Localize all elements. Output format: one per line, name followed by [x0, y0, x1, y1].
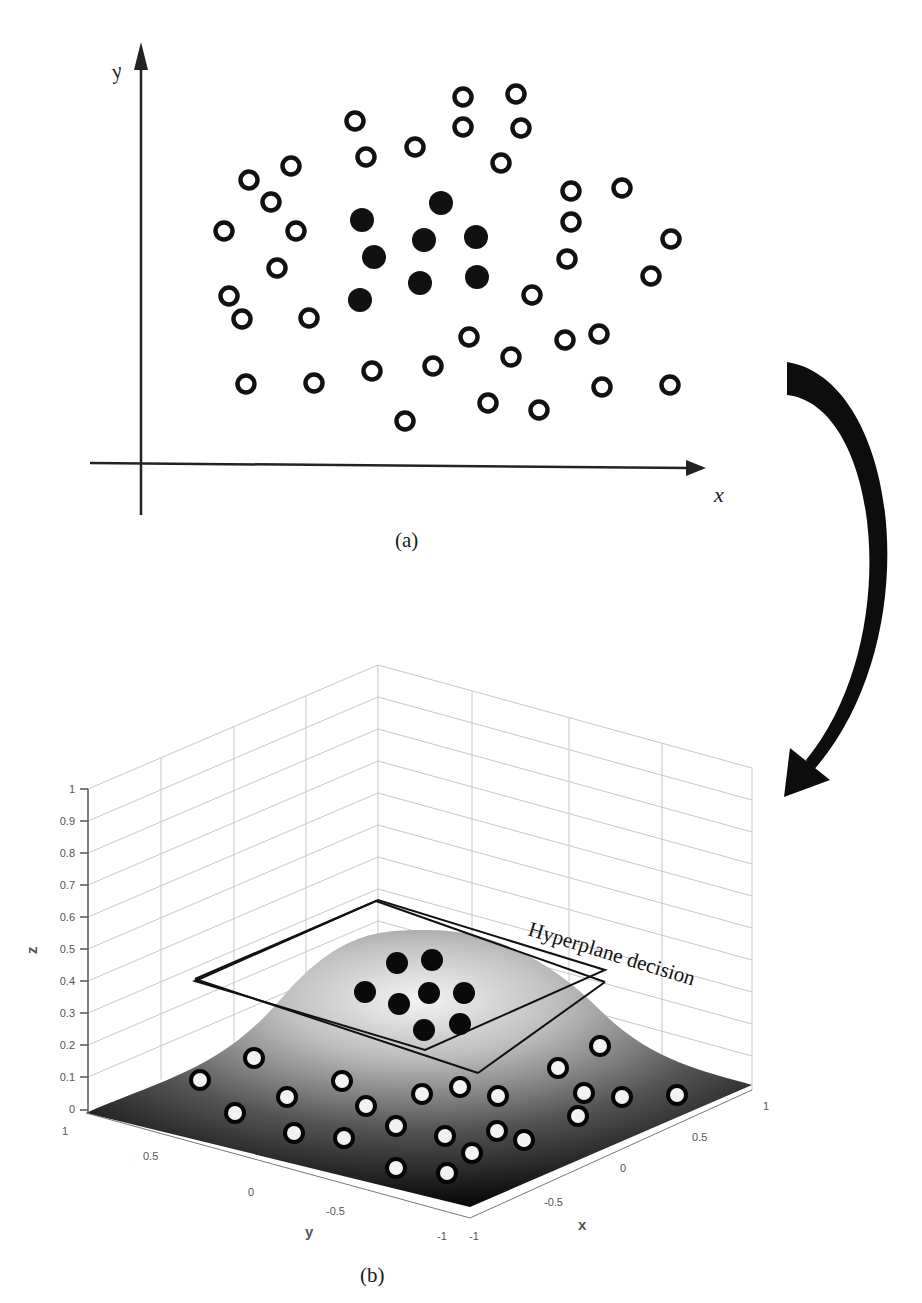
y-axis-label: y: [107, 57, 125, 84]
figure-canvas: y x: [0, 0, 922, 1303]
panel-b-caption: (b): [360, 1263, 385, 1288]
x-axis-label-3d: x: [578, 1216, 587, 1233]
svg-text:0.5: 0.5: [60, 943, 75, 955]
svg-text:-0.5: -0.5: [544, 1196, 563, 1208]
z-tick-labels: 0 0.1 0.2 0.3 0.4 0.5 0.6 0.7 0.8 0.9 1: [60, 783, 75, 1115]
z-axis-label: z: [23, 947, 40, 955]
svg-text:0.1: 0.1: [60, 1071, 75, 1083]
panel-a-inner-class-points: [348, 191, 489, 312]
panel-a-caption: (a): [395, 528, 418, 553]
svg-text:0.6: 0.6: [60, 911, 75, 923]
svg-text:0.9: 0.9: [60, 815, 75, 827]
curved-arrow-icon: [784, 362, 887, 797]
z-axis: [80, 789, 88, 1113]
svg-text:0.4: 0.4: [60, 975, 75, 987]
svg-text:0.5: 0.5: [692, 1131, 707, 1143]
x-axis-line: [90, 463, 690, 468]
svg-text:-0.5: -0.5: [326, 1205, 345, 1217]
x-axis-arrowhead-icon: [686, 460, 706, 476]
svg-text:-1: -1: [469, 1230, 479, 1242]
svg-text:0.5: 0.5: [143, 1150, 158, 1162]
svg-text:0.3: 0.3: [60, 1007, 75, 1019]
svg-text:0.8: 0.8: [60, 847, 75, 859]
svg-text:1: 1: [62, 1125, 68, 1137]
svg-text:0: 0: [620, 1162, 626, 1174]
panel-a-axes: y x: [90, 42, 724, 515]
svg-text:1: 1: [69, 783, 75, 795]
svg-text:1: 1: [763, 1100, 769, 1112]
svg-text:-1: -1: [437, 1230, 447, 1242]
x-axis-label: x: [713, 482, 724, 507]
y-axis-arrowhead-icon: [134, 42, 148, 70]
svg-text:0.2: 0.2: [60, 1039, 75, 1051]
svg-text:0: 0: [248, 1186, 254, 1198]
panel-a-outer-class-points: [216, 86, 680, 430]
y-axis-label-3d: y: [305, 1223, 314, 1240]
svg-text:0: 0: [69, 1103, 75, 1115]
svg-text:0.7: 0.7: [60, 879, 75, 891]
